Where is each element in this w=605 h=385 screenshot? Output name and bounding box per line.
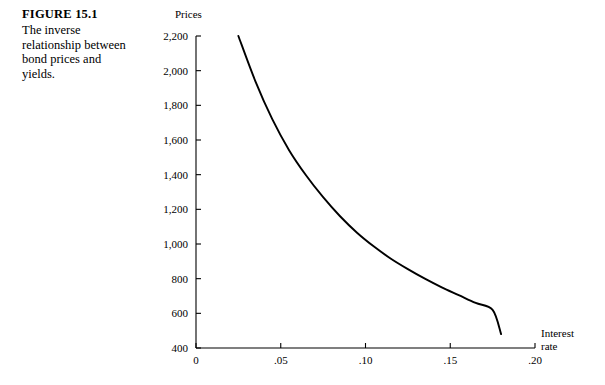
x-axis-title-line: rate [541,340,557,352]
x-axis-tick-label: .20 [515,355,555,366]
y-axis-title: Prices [175,8,202,21]
y-axis-tick-label: 400 [144,343,188,354]
x-axis-title-line: Interest [541,327,574,339]
x-axis-tick-label: .05 [261,355,301,366]
y-axis-tick-label: 1,800 [144,100,188,111]
y-axis-tick-label: 800 [144,274,188,285]
y-axis-tick-label: 1,400 [144,170,188,181]
y-axis-tick-label: 2,000 [144,66,188,77]
chart-svg [0,0,605,385]
chart-plot-area: Prices Interestrate 4006008001,0001,2001… [0,0,605,385]
y-axis-tick-label: 2,200 [144,31,188,42]
bond-price-curve [238,36,501,334]
x-axis-title: Interestrate [541,327,574,352]
y-axis-tick-label: 1,600 [144,135,188,146]
y-axis-tick-label: 1,200 [144,204,188,215]
y-axis-ticks [196,36,201,348]
x-axis-tick-label: .15 [430,355,470,366]
x-axis-tick-label: .10 [346,355,386,366]
figure-container: FIGURE 15.1 The inverse relationship bet… [0,0,605,385]
y-axis-tick-label: 1,000 [144,239,188,250]
y-axis-tick-label: 600 [144,308,188,319]
x-axis-ticks [196,343,535,348]
x-axis-tick-label: 0 [176,355,216,366]
